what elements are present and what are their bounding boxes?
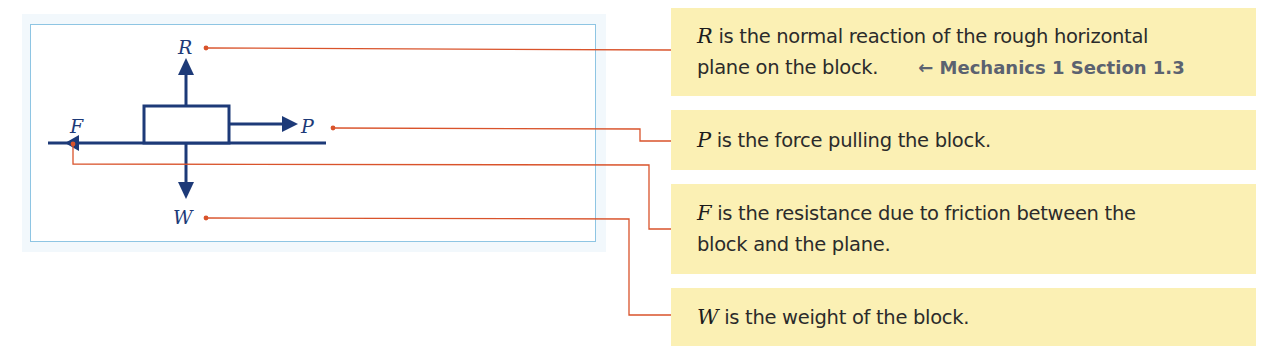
label-p: P: [301, 117, 314, 136]
cross-reference-link[interactable]: ← Mechanics 1 Section 1.3: [918, 57, 1184, 78]
label-r: R: [178, 38, 192, 57]
note-f: F is the resistance due to friction betw…: [671, 184, 1256, 274]
note-r-symbol: R: [697, 24, 713, 48]
connector-r: [206, 48, 671, 50]
note-w-symbol: W: [697, 305, 718, 329]
connector-dot-f: [71, 142, 76, 147]
block-rectangle: [144, 106, 229, 143]
connector-dot-p: [331, 126, 336, 131]
connector-dot-r: [204, 46, 209, 51]
connector-dot-w: [204, 216, 209, 221]
label-f: F: [70, 117, 83, 136]
note-f-symbol: F: [697, 201, 711, 225]
connector-p: [333, 128, 671, 141]
note-r-line1: R is the normal reaction of the rough ho…: [697, 21, 1256, 52]
note-p-symbol: P: [697, 128, 711, 152]
p-arrow-icon: [229, 116, 298, 132]
note-w: W is the weight of the block.: [671, 288, 1256, 346]
note-w-text: is the weight of the block.: [718, 306, 969, 329]
note-r-text-2: plane on the block.: [697, 56, 878, 79]
note-r-line2: plane on the block.← Mechanics 1 Section…: [697, 52, 1256, 83]
note-f-text-2: block and the plane.: [697, 233, 890, 256]
note-p-text: is the force pulling the block.: [711, 129, 991, 152]
connector-f: [73, 144, 671, 229]
label-w: W: [173, 208, 193, 227]
connector-w: [206, 218, 671, 315]
note-r-text: is the normal reaction of the rough hori…: [713, 25, 1149, 48]
note-p: P is the force pulling the block.: [671, 110, 1256, 170]
r-arrow-icon: [178, 58, 194, 106]
note-f-text: is the resistance due to friction betwee…: [711, 202, 1135, 225]
w-arrow-icon: [178, 143, 194, 199]
note-r: R is the normal reaction of the rough ho…: [671, 8, 1256, 96]
